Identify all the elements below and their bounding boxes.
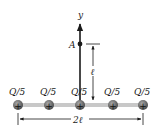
distance-label: ℓ	[91, 67, 95, 77]
charge-label: Q/5	[134, 87, 150, 97]
width-dimension: 2ℓ	[18, 113, 143, 125]
charge-diagram: y A ℓ Q/5 + Q/5 + Q/5 + Q/5 + Q/5 +	[0, 0, 156, 133]
distance-dimension: ℓ	[86, 44, 100, 100]
plus-icon: +	[76, 101, 84, 111]
plus-icon: +	[139, 101, 147, 111]
plus-icon: +	[45, 101, 53, 111]
y-axis-label: y	[77, 10, 84, 20]
charge-label: Q/5	[104, 87, 120, 97]
width-label: 2ℓ	[72, 115, 83, 125]
charge-label: Q/5	[9, 87, 25, 97]
charge-label: Q/5	[40, 87, 56, 97]
plus-icon: +	[109, 101, 117, 111]
plus-icon: +	[14, 101, 22, 111]
point-a-dot	[78, 42, 83, 47]
charge-label: Q/5	[71, 87, 87, 97]
point-a-label: A	[68, 40, 76, 50]
